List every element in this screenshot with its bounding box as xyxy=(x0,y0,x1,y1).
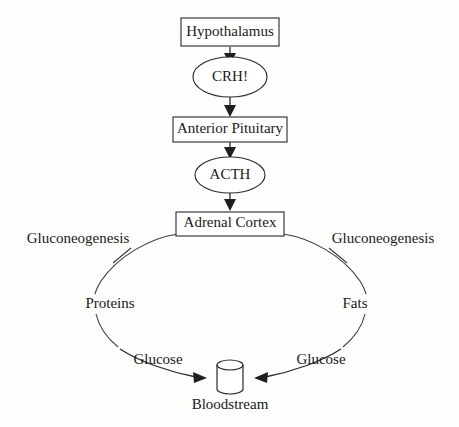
label-gluconeogenesis-left: Gluconeogenesis xyxy=(27,230,130,246)
node-bloodstream-cylinder xyxy=(217,360,243,394)
arrowhead-crh-to-pituitary xyxy=(224,105,236,117)
diagram-page: Hypothalamus CRH! Anterior Pituitary ACT… xyxy=(0,0,459,427)
arrowhead-acth-to-adrenal xyxy=(224,199,236,211)
label-gluconeogenesis-right: Gluconeogenesis xyxy=(332,230,435,246)
node-crh-label: CRH! xyxy=(212,68,248,84)
cylinder-top-ellipse xyxy=(217,360,243,370)
leader-line-gluconeogenesis-right xyxy=(329,248,347,263)
glucose-arrow-left-head xyxy=(193,372,207,383)
node-adrenal-cortex-label: Adrenal Cortex xyxy=(184,214,277,230)
label-glucose-right: Glucose xyxy=(296,351,345,367)
hpa-axis-diagram: Hypothalamus CRH! Anterior Pituitary ACT… xyxy=(0,0,459,427)
cycle-arc-right-lower xyxy=(343,314,365,347)
node-hypothalamus-label: Hypothalamus xyxy=(186,23,274,39)
label-proteins: Proteins xyxy=(85,295,134,311)
node-acth-label: ACTH xyxy=(210,166,251,182)
node-bloodstream-label: Bloodstream xyxy=(192,396,269,412)
node-anterior-pituitary-label: Anterior Pituitary xyxy=(177,120,284,136)
label-glucose-left: Glucose xyxy=(133,351,182,367)
label-fats: Fats xyxy=(342,295,367,311)
cycle-arc-left-lower xyxy=(96,314,118,347)
glucose-arrow-right-head xyxy=(254,372,268,383)
leader-line-gluconeogenesis-left xyxy=(113,248,131,263)
